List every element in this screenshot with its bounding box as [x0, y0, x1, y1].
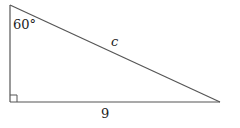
- hypotenuse-label: c: [111, 34, 119, 49]
- triangle-diagram: 60° c 9: [0, 0, 240, 128]
- angle-label: 60°: [13, 17, 36, 32]
- right-angle-marker: [10, 95, 17, 102]
- base-label: 9: [101, 106, 109, 121]
- hypotenuse: [10, 5, 220, 102]
